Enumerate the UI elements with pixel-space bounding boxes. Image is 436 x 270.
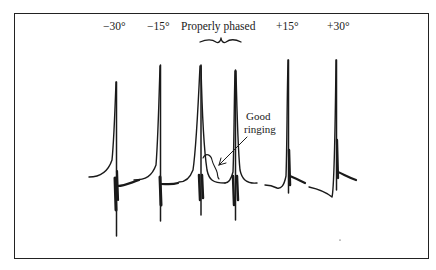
- peak-minus-15: [134, 65, 200, 221]
- peak-properly-phased-2: [233, 70, 257, 220]
- brace-icon: [200, 38, 241, 43]
- peak-properly-phased: [199, 65, 235, 215]
- peak-minus-30: [89, 82, 139, 236]
- nmr-spectra-plot: [0, 0, 436, 270]
- speck: [339, 239, 340, 240]
- peak-plus-15: [265, 60, 305, 193]
- peak-plus-30: [309, 60, 356, 197]
